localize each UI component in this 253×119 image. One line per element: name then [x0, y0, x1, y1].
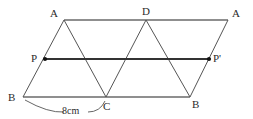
geometry-figure: A D A P P' B C B 8cm [0, 0, 253, 119]
label-apex-a-right: A [232, 8, 240, 19]
label-base-b-right: B [192, 99, 199, 110]
label-apex-a-left: A [50, 8, 58, 19]
label-measure-bc: 8cm [62, 106, 79, 116]
measure-arc-left [25, 100, 64, 112]
label-base-b-left: B [8, 92, 15, 103]
label-point-p-prime: P' [213, 53, 221, 64]
label-apex-d: D [142, 6, 150, 17]
label-point-p: P [31, 53, 37, 64]
label-base-c: C [103, 101, 110, 112]
dot-p-marker [43, 57, 47, 61]
dot-p-prime-marker [207, 57, 211, 61]
